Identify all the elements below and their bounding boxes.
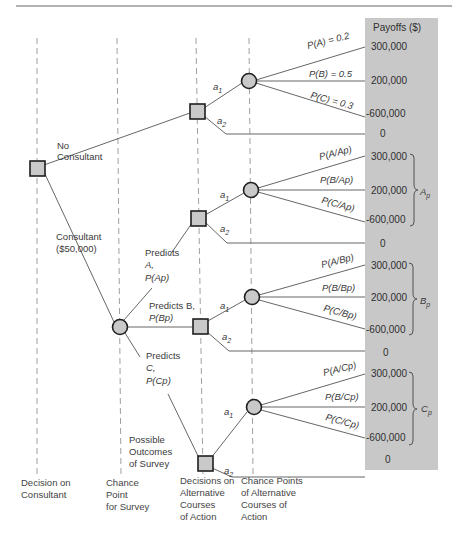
label-consultant: Consultant ($50,000)	[56, 231, 104, 254]
svg-text:a1: a1	[220, 300, 229, 313]
chance-node-predict-A[interactable]	[244, 183, 259, 198]
label-predicts-A: Predicts A, P(Ap)	[144, 247, 182, 283]
svg-text:a2: a2	[220, 223, 229, 236]
payoff-value: 300,000	[371, 151, 408, 162]
prob-label: P(A/Ap)	[318, 143, 353, 162]
decision-tree-diagram: Payoffs ($) No Consultant Consultant ($5…	[0, 0, 456, 534]
label-possible-outcomes: Possible Outcomes of Survey	[129, 434, 175, 469]
svg-text:a2: a2	[222, 331, 231, 344]
caption-decisions-on-alternatives: Decisions on Alternative Courses of Acti…	[180, 475, 237, 522]
prob-label: P(B/Bp)	[322, 282, 355, 293]
payoff-value-a2: 0	[380, 238, 386, 249]
prob-label: P(C) = 0.3	[309, 89, 355, 111]
payoff-value: 200,000	[371, 185, 408, 196]
branch-predicts-A	[124, 288, 152, 320]
svg-text:a1: a1	[213, 81, 222, 94]
svg-text:a1: a1	[220, 189, 229, 202]
svg-text:a2: a2	[217, 115, 226, 128]
decision-node-root[interactable]	[30, 161, 45, 176]
prob-label: P(A/Bp)	[320, 251, 355, 270]
column-guide-survey-chance	[117, 38, 121, 475]
prob-label: P(A) = 0.2	[306, 30, 351, 51]
decision-node-predict-A[interactable]	[191, 211, 206, 226]
caption-chance-points-alternatives: Chance Points of Alternative Courses of …	[241, 475, 305, 522]
chance-node-predict-B[interactable]	[245, 290, 260, 305]
chance-node-no-consultant[interactable]	[242, 74, 257, 89]
label-predicts-C: Predicts C, P(Cp)	[146, 350, 183, 386]
svg-text:a1: a1	[224, 406, 233, 419]
payoff-value: 200,000	[371, 292, 408, 303]
label-predicts-B: Predicts B, P(Bp)	[149, 300, 198, 323]
payoff-value: -600,000	[366, 432, 406, 443]
payoff-value: -600,000	[366, 108, 406, 119]
prob-label: P(B/Cp)	[325, 391, 359, 402]
payoff-value-a2: 0	[383, 347, 389, 358]
decision-node-no-consultant[interactable]	[190, 104, 205, 119]
prob-label: P(B) = 0.5	[309, 68, 353, 79]
caption-decision-on-consultant: Decision on Consultant	[21, 477, 73, 500]
chance-node-predict-C[interactable]	[247, 400, 262, 415]
payoff-value-a2: 0	[385, 454, 391, 465]
decision-node-predict-B[interactable]	[193, 319, 208, 334]
payoff-value-a2: 0	[380, 128, 386, 139]
payoff-value: 300,000	[371, 41, 408, 52]
payoff-value: 200,000	[371, 75, 408, 86]
branch-predicts-C	[125, 333, 140, 357]
payoff-value: -600,000	[366, 214, 406, 225]
payoff-value: 300,000	[371, 260, 408, 271]
caption-chance-point-survey: Chance Point for Survey	[106, 477, 150, 512]
chance-node-survey[interactable]	[113, 320, 128, 335]
payoffs-header: Payoffs ($)	[373, 22, 421, 33]
label-no-consultant: No Consultant	[57, 140, 103, 162]
payoff-value: -600,000	[366, 324, 406, 335]
payoff-value: 300,000	[371, 368, 408, 379]
payoff-value: 200,000	[371, 402, 408, 413]
prob-label: P(B/Ap)	[320, 174, 353, 185]
prob-label: P(C/Cp)	[324, 411, 360, 431]
prob-label: P(A/Cp)	[322, 359, 357, 378]
decision-node-predict-C[interactable]	[198, 456, 213, 471]
